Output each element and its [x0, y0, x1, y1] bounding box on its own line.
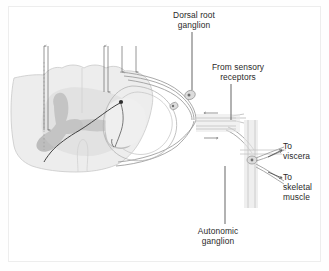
nerve-trunk-wash: [196, 114, 240, 132]
dorsal-root-ganglion-circle: [169, 89, 197, 111]
label-to-viscera: To viscera: [283, 141, 329, 161]
label-to-skeletal-muscle: To skeletal muscle: [283, 172, 329, 203]
leader-to-viscera: [268, 150, 282, 157]
figure-container: Dorsal root ganglion From sensory recept…: [0, 0, 329, 271]
autonomic-ganglion-branch: [240, 120, 286, 208]
label-autonomic-ganglion: Autonomic ganglion: [176, 226, 260, 246]
label-from-sensory-receptors: From sensory receptors: [198, 62, 278, 82]
label-dorsal-root-ganglion: Dorsal root ganglion: [152, 10, 236, 30]
diagram-artwork: [0, 0, 329, 271]
